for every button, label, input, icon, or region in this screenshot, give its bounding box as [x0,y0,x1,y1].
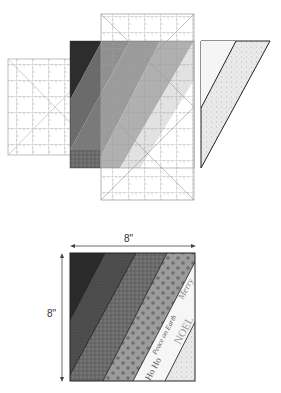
finished-block: Merry NOEL Peace on Earth Ho Ho [70,253,196,382]
center-ruler [101,14,194,200]
width-label: 8" [124,233,133,244]
quilt-diagram: Merry NOEL Peace on Earth Ho Ho [0,0,281,393]
dimension-height-arrow [60,253,64,382]
dimension-width-arrow [70,244,196,248]
offcut-triangle [201,41,270,168]
height-label: 8" [47,308,56,319]
